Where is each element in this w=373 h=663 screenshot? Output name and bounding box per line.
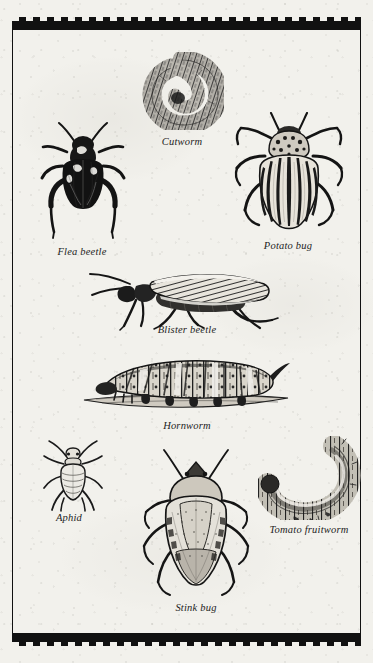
flea-beetle-illustration [37,118,129,242]
caption-tomato-fruitworm: Tomato fruitworm [252,524,366,535]
caption-hornworm: Hornworm [78,420,296,431]
potato-bug-illustration [227,112,351,238]
cutworm-illustration [140,52,224,130]
hornworm-illustration [82,348,292,420]
blister-beetle-illustration [86,250,288,332]
caption-blister-beetle: Blister beetle [78,324,296,335]
tomato-fruitworm-illustration [258,436,362,520]
stink-bug-illustration [138,448,254,598]
caption-aphid: Aphid [14,512,124,523]
caption-cutworm: Cutworm [122,136,242,147]
caption-stink-bug: Stink bug [118,602,274,613]
illustration-plate: Cutworm [0,0,373,663]
aphid-illustration [40,440,106,516]
